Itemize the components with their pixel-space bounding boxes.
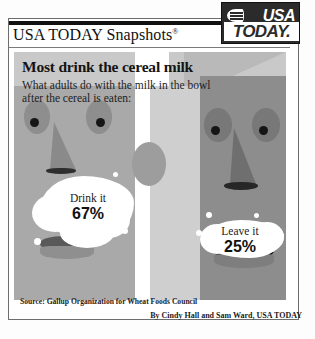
logo-top-row: USA [222, 6, 299, 23]
data-label-drink-it-value: 67% [53, 205, 123, 222]
right-face-eye-socket-left [204, 108, 232, 142]
source-note: Source: Gallup Organization for Wheat Fo… [20, 297, 197, 306]
right-face-pupil-left [211, 126, 220, 135]
snapshots-title: USA TODAY Snapshots® [13, 26, 243, 46]
logo-today-text: TODAY. [224, 22, 299, 41]
data-label-drink-it-caption: Drink it [53, 192, 123, 205]
left-face-eye-socket-right [86, 100, 112, 134]
header-separator [9, 47, 290, 48]
registered-trademark-icon: ® [172, 27, 178, 36]
data-label-leave-it: Leave it 25% [209, 225, 271, 255]
left-face-eye-socket-left [24, 100, 50, 134]
right-face-nose [230, 128, 256, 184]
snapshots-title-text: USA TODAY Snapshots [13, 26, 172, 43]
right-face-nostril [224, 182, 258, 190]
right-face-pupil-right [259, 126, 268, 135]
middle-face-eye-socket [132, 142, 166, 186]
face-right-leaver [200, 76, 286, 300]
snapshot-infographic: USA TODAY Snapshots® USA TODAY. [0, 0, 315, 339]
usa-today-logo: USA TODAY. [221, 2, 300, 44]
data-label-leave-it-caption: Leave it [209, 225, 271, 238]
data-label-drink-it: Drink it 67% [53, 192, 123, 222]
left-face-nostril [46, 168, 76, 174]
left-face-pupil-left [30, 118, 39, 127]
credit-line: By Cindy Hall and Sam Ward, USA TODAY [150, 311, 302, 320]
milk-droplet-right-c [254, 213, 259, 218]
milk-droplet-right-b [206, 212, 212, 218]
milk-droplet-right-a [196, 230, 202, 236]
milk-droplet-left-b [122, 228, 128, 234]
globe-swoosh-icon [227, 9, 244, 22]
data-label-leave-it-value: 25% [209, 238, 271, 255]
left-face-nose [50, 122, 76, 170]
chart-headline: Most drink the cereal milk [22, 58, 237, 76]
milk-droplet-left-c [113, 172, 118, 177]
left-face-pupil-right [96, 118, 105, 127]
right-face-eye-socket-right [252, 108, 280, 142]
chart-subtitle: What adults do with the milk in the bowl… [22, 79, 227, 104]
milk-droplet-left-a [34, 238, 41, 245]
